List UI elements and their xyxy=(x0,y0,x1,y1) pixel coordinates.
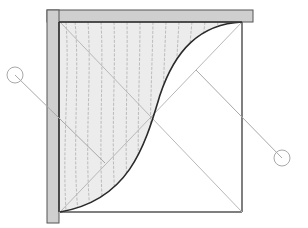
leader-line xyxy=(196,70,282,158)
diagram-canvas xyxy=(0,0,308,228)
top-wall xyxy=(47,10,253,22)
callout-right xyxy=(196,70,290,166)
